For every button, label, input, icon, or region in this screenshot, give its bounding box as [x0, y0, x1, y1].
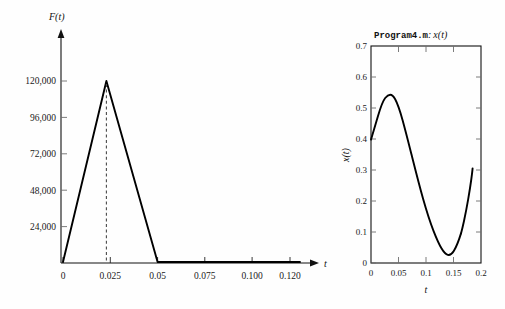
right-chart-title-colon: : — [428, 29, 431, 40]
right-chart-svg: Program4.m:x(t) 0 0 — [330, 0, 505, 309]
left-chart-force-pulse: F(t) t 24,000 48,000 72,000 96,000 12 — [0, 0, 340, 309]
left-y-tick-label-0: 24,000 — [30, 222, 56, 232]
right-chart-title-mono: Program4.m — [374, 31, 429, 41]
left-y-tick-label-4: 120,000 — [25, 76, 56, 86]
right-x-tick-label-2: 0.1 — [420, 268, 431, 278]
left-y-tick-label-2: 72,000 — [30, 149, 56, 159]
right-x-tick-label-0: 0 — [369, 268, 374, 278]
left-x-tick-label-3: 0.075 — [194, 271, 216, 281]
right-y-tick-label-6: 0.6 — [356, 72, 368, 82]
left-y-axis-arrowhead — [58, 29, 65, 38]
right-y-tick-label-7: 0.7 — [356, 41, 368, 51]
left-y-tick-label-3: 96,000 — [30, 113, 56, 123]
left-x-tick-label-0: 0 — [61, 271, 66, 281]
right-x-tick-label-3: 0.15 — [446, 268, 462, 278]
left-x-axis-arrowhead — [310, 260, 319, 267]
left-y-tick-label-1: 48,000 — [30, 186, 56, 196]
right-x-ticks — [399, 46, 454, 263]
figure-page: F(t) t 24,000 48,000 72,000 96,000 12 — [0, 0, 505, 309]
right-x-axis-label: t — [425, 284, 428, 295]
right-x-tick-label-4: 0.2 — [475, 268, 486, 278]
right-y-tick-label-4: 0.4 — [356, 134, 368, 144]
left-x-tick-label-4: 0.100 — [241, 271, 263, 281]
right-y-ticks — [371, 77, 481, 263]
right-data-curve-x-tail — [461, 168, 473, 233]
right-chart-title: Program4.m:x(t) — [374, 29, 448, 41]
left-y-ticks — [61, 81, 67, 227]
left-y-axis-label: F(t) — [48, 11, 65, 23]
right-chart-title-italic: x(t) — [432, 29, 448, 41]
right-plot-frame — [371, 46, 481, 263]
right-data-curve-x — [371, 95, 461, 255]
right-y-tick-label-3: 0.3 — [356, 165, 368, 175]
left-chart-svg: F(t) t 24,000 48,000 72,000 96,000 12 — [0, 0, 340, 309]
right-y-axis-label: x(t) — [340, 147, 352, 163]
left-x-tick-label-1: 0.025 — [100, 271, 122, 281]
left-data-curve-force — [63, 81, 300, 262]
right-x-tick-label-1: 0.05 — [391, 268, 407, 278]
right-chart-program4: Program4.m:x(t) 0 0 — [330, 0, 505, 309]
left-x-tick-label-5: 0.120 — [279, 271, 301, 281]
left-x-tick-label-2: 0.05 — [149, 271, 166, 281]
left-x-axis-label: t — [324, 258, 327, 269]
right-y-tick-label-5: 0.5 — [356, 103, 368, 113]
right-y-tick-label-2: 0.2 — [356, 196, 367, 206]
right-y-tick-label-0: 0 — [363, 258, 368, 268]
right-y-tick-label-1: 0.1 — [356, 227, 367, 237]
